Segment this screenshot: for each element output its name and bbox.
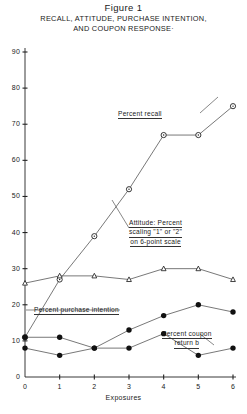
point-marker bbox=[22, 345, 27, 350]
annotation-purchase-intention-label: Percent purchase intention bbox=[34, 306, 119, 315]
point-marker bbox=[231, 277, 236, 282]
point-marker bbox=[196, 302, 201, 307]
annotation-recall: Percent recall bbox=[118, 110, 162, 119]
y-tick-60: 60 bbox=[4, 156, 20, 163]
annotation-attitude: Attitude: Percent scaling "1" or "2" on … bbox=[129, 219, 182, 247]
x-tick-0: 0 bbox=[18, 383, 32, 390]
annotation-coupon-return-line-2: return b bbox=[174, 339, 199, 348]
chart-canvas bbox=[0, 0, 247, 414]
point-marker bbox=[23, 281, 28, 286]
point-marker bbox=[196, 353, 201, 358]
y-tick-40: 40 bbox=[4, 229, 20, 236]
point-marker bbox=[92, 345, 97, 350]
point-marker bbox=[196, 266, 201, 271]
y-tick-30: 30 bbox=[4, 265, 20, 272]
y-tick-10: 10 bbox=[4, 337, 20, 344]
x-tick-4: 4 bbox=[157, 383, 171, 390]
annotation-attitude-line-1: Attitude: Percent bbox=[129, 219, 182, 228]
annotation-recall-label: Percent recall bbox=[118, 110, 162, 119]
annotation-attitude-line-3: on 6-point scale bbox=[130, 238, 181, 247]
figure-root: Figure 1 RECALL, ATTITUDE, PURCHASE INTE… bbox=[0, 0, 247, 414]
x-tick-5: 5 bbox=[191, 383, 205, 390]
annotation-coupon-return: Percent coupon return b bbox=[162, 330, 212, 349]
chart-plot-area bbox=[0, 0, 247, 414]
y-tick-90: 90 bbox=[4, 48, 20, 55]
point-marker bbox=[22, 335, 27, 340]
point-marker bbox=[57, 335, 62, 340]
point-marker bbox=[92, 273, 97, 278]
point-marker bbox=[126, 327, 131, 332]
point-marker bbox=[57, 353, 62, 358]
x-tick-1: 1 bbox=[53, 383, 67, 390]
point-marker bbox=[127, 277, 132, 282]
y-tick-80: 80 bbox=[4, 84, 20, 91]
y-tick-0: 0 bbox=[4, 373, 20, 380]
y-tick-50: 50 bbox=[4, 192, 20, 199]
point-marker bbox=[161, 313, 166, 318]
point-marker bbox=[230, 345, 235, 350]
annotation-attitude-line-2: scaling "1" or "2" bbox=[129, 228, 182, 237]
point-marker bbox=[57, 273, 62, 278]
y-tick-70: 70 bbox=[4, 120, 20, 127]
annotation-purchase-intention: Percent purchase intention bbox=[34, 306, 119, 315]
point-marker bbox=[126, 345, 131, 350]
x-tick-3: 3 bbox=[122, 383, 136, 390]
point-marker bbox=[230, 309, 235, 314]
y-tick-20: 20 bbox=[4, 301, 20, 308]
x-axis-title: Exposures bbox=[0, 394, 247, 401]
x-tick-6: 6 bbox=[226, 383, 240, 390]
series-1 bbox=[23, 266, 236, 285]
annotation-coupon-return-line-1: Percent coupon bbox=[162, 330, 212, 339]
point-marker bbox=[161, 266, 166, 271]
x-tick-2: 2 bbox=[87, 383, 101, 390]
